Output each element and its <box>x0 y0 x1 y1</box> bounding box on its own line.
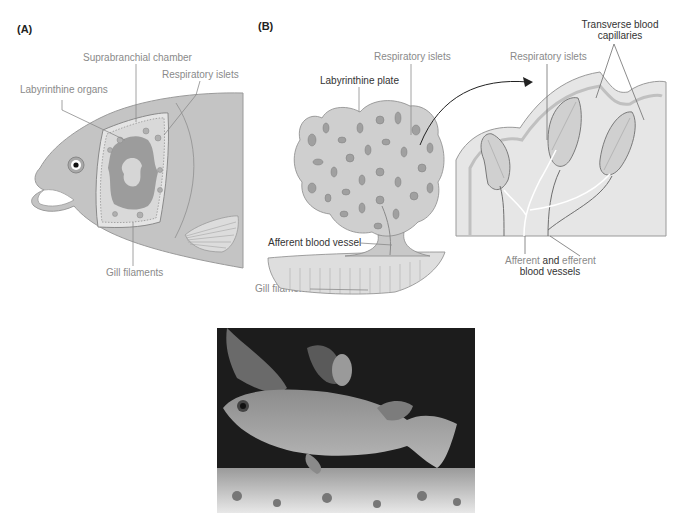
fish-head-illustration <box>32 64 243 268</box>
fish-photograph <box>217 328 475 513</box>
magnified-islets-illustration <box>456 44 666 256</box>
fish-photo-graphic <box>217 328 475 513</box>
